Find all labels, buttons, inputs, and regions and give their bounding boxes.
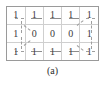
contour-dash-left-upper [21, 21, 22, 33]
grid-cell-r0c1: 1 [25, 7, 43, 24]
cell-value: 1 [68, 9, 73, 20]
grid-frame: 1 1 1 1 1 1 0 0 0 1 1 1 1 1 1 [6, 6, 99, 61]
cell-value: 1 [50, 46, 55, 57]
cell-value: 0 [50, 28, 55, 39]
cell-value: 1 [32, 9, 37, 20]
grid-cell-r1c2: 0 [43, 24, 61, 42]
binary-grid-table: 1 1 1 1 1 1 0 0 0 1 1 1 1 1 1 [7, 7, 98, 60]
contour-dash-left-lower [21, 37, 22, 49]
cell-value: 1 [68, 46, 73, 57]
grid-cell-r0c3: 1 [62, 7, 80, 24]
cell-value: 1 [13, 9, 18, 20]
grid-cell-r2c4: 1 [80, 43, 98, 60]
cell-value: 1 [13, 28, 18, 39]
grid-cell-r1c0: 1 [7, 24, 25, 42]
cell-value: 1 [13, 46, 18, 57]
grid-cell-r0c2: 1 [43, 7, 61, 24]
cell-value: 0 [68, 28, 73, 39]
cell-value: 0 [32, 28, 37, 39]
cell-value: 1 [87, 28, 92, 39]
cell-value: 1 [32, 46, 37, 57]
cell-value: 1 [87, 9, 92, 20]
cell-value: 1 [50, 9, 55, 20]
grid-cell-r1c4: 1 [80, 24, 98, 42]
figure-caption: (a) [0, 65, 105, 76]
binary-grid-figure: 1 1 1 1 1 1 0 0 0 1 1 1 1 1 1 [0, 0, 105, 87]
cell-value: 1 [87, 46, 92, 57]
grid-cell-r1c3: 0 [62, 24, 80, 42]
grid-cell-r0c0: 1 [7, 7, 25, 24]
